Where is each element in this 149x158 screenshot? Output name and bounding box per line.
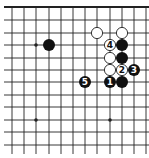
black-stone [43, 39, 55, 51]
black-stone-move-5: 5 [79, 76, 91, 88]
white-stone [104, 64, 115, 75]
star-point [34, 43, 38, 47]
move-number: 2 [119, 65, 125, 75]
star-point [108, 118, 112, 122]
star-point [34, 118, 38, 122]
white-stone-move-4: 4 [104, 39, 115, 50]
white-stone [104, 52, 115, 63]
move-number: 1 [107, 77, 113, 87]
black-stone-move-3: 3 [128, 64, 140, 76]
move-number: 5 [82, 77, 88, 87]
white-stone-move-2: 2 [116, 64, 127, 75]
black-stone [116, 52, 128, 64]
move-number: 3 [131, 65, 137, 75]
black-stone [116, 39, 128, 51]
white-stone [116, 27, 127, 38]
move-number: 4 [107, 40, 113, 50]
go-board-diagram: 42351 [0, 0, 149, 158]
black-stone [116, 76, 128, 88]
white-stone [91, 27, 102, 38]
black-stone-move-1: 1 [104, 76, 116, 88]
